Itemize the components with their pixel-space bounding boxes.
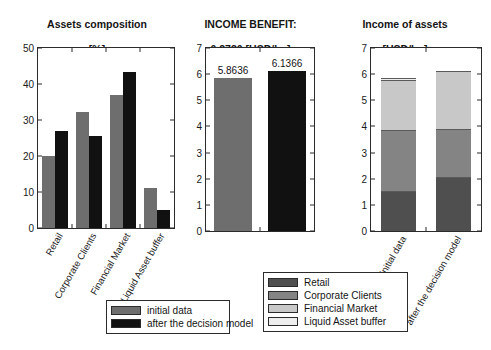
series-legend: initial dataafter the decision model [106, 300, 230, 334]
y-tick-label: 10 [23, 187, 34, 198]
y-tick-mark [477, 152, 481, 153]
legend-label: Corporate Clients [304, 290, 382, 301]
assets-legend-item[interactable]: Corporate Clients [268, 289, 402, 302]
stack-segment [381, 130, 415, 192]
panel3-title-line1: Income of assets [325, 18, 485, 31]
y-tick-mark [310, 152, 314, 153]
y-tick-mark [206, 178, 210, 179]
y-tick-mark [170, 120, 174, 121]
y-tick-mark [371, 126, 375, 127]
y-tick-mark [310, 48, 314, 49]
bar-initial-data [144, 188, 157, 228]
stack-segment [436, 71, 470, 129]
y-tick-label: 3 [361, 147, 367, 158]
y-tick-mark [477, 48, 481, 49]
y-tick-mark [310, 178, 314, 179]
figure-canvas: Assets composition [%] 01020304050Retail… [0, 0, 491, 350]
y-tick-mark [38, 120, 42, 121]
legend-swatch-icon [268, 291, 298, 300]
y-tick-label: 6 [196, 69, 202, 80]
x-tick-mark [106, 48, 107, 52]
legend-swatch-icon [268, 317, 298, 326]
y-tick-mark [310, 231, 314, 232]
y-tick-mark [477, 74, 481, 75]
y-tick-label: 2 [361, 173, 367, 184]
y-tick-label: 0 [361, 226, 367, 237]
income-of-assets-plot: 01234567initial dataafter the decision m… [370, 47, 482, 232]
bar-value-label: 6.1366 [272, 58, 303, 69]
y-tick-mark [170, 156, 174, 157]
x-tick-mark [106, 224, 107, 228]
legend-label: Liquid Asset buffer [304, 316, 386, 327]
y-tick-mark [206, 100, 210, 101]
legend-swatch-icon [111, 306, 141, 315]
y-tick-label: 6 [361, 69, 367, 80]
y-tick-mark [477, 126, 481, 127]
panel1-title-line1: Assets composition [12, 18, 182, 31]
stack-segment [381, 80, 415, 129]
y-tick-label: 0 [28, 223, 34, 234]
y-tick-mark [38, 48, 42, 49]
stack-segment [436, 177, 470, 231]
y-tick-mark [206, 231, 210, 232]
y-tick-mark [310, 204, 314, 205]
assets-legend-item[interactable]: Liquid Asset buffer [268, 315, 402, 328]
y-tick-mark [371, 100, 375, 101]
x-tick-mark [426, 48, 427, 52]
x-tick-mark [260, 227, 261, 231]
y-tick-label: 0 [196, 226, 202, 237]
y-tick-mark [206, 126, 210, 127]
x-tick-mark [260, 48, 261, 52]
y-tick-label: 4 [361, 121, 367, 132]
y-tick-label: 40 [23, 79, 34, 90]
x-tick-mark [72, 224, 73, 228]
x-tick-mark [140, 224, 141, 228]
y-tick-label: 1 [196, 199, 202, 210]
stack-segment [381, 191, 415, 231]
y-tick-label: 5 [196, 95, 202, 106]
y-tick-label: 7 [361, 43, 367, 54]
y-tick-mark [38, 84, 42, 85]
legend-label: initial data [147, 305, 192, 316]
y-tick-mark [170, 228, 174, 229]
legend-label: Financial Market [304, 303, 377, 314]
legend-swatch-icon [268, 278, 298, 287]
x-axis-label-text: Retail [43, 231, 65, 258]
y-tick-mark [310, 100, 314, 101]
y-tick-mark [371, 178, 375, 179]
x-tick-mark [426, 227, 427, 231]
bar-after-decision-model [123, 72, 136, 228]
x-tick-mark [140, 48, 141, 52]
y-tick-label: 30 [23, 115, 34, 126]
series-legend-item[interactable]: after the decision model [111, 317, 224, 330]
legend-label: after the decision model [147, 318, 253, 329]
assets-legend: RetailCorporate ClientsFinancial MarketL… [263, 272, 408, 332]
x-axis-label-text: initial data [377, 234, 408, 277]
bar-after-decision-model [89, 136, 102, 228]
assets-legend-item[interactable]: Retail [268, 276, 402, 289]
series-legend-item[interactable]: initial data [111, 304, 224, 317]
legend-swatch-icon [111, 319, 141, 328]
panel2-title-line1: INCOME BENEFIT: [168, 18, 333, 31]
legend-swatch-icon [268, 304, 298, 313]
assets-legend-item[interactable]: Financial Market [268, 302, 402, 315]
y-tick-mark [477, 100, 481, 101]
y-tick-label: 1 [361, 199, 367, 210]
x-tick-mark [72, 48, 73, 52]
legend-label: Retail [304, 277, 330, 288]
y-tick-label: 5 [361, 95, 367, 106]
income-benefit-plot: 012345675.86366.1366 [205, 47, 315, 232]
stack-segment [381, 78, 415, 81]
stack-segment [436, 129, 470, 177]
y-tick-mark [170, 84, 174, 85]
bar-after-decision-model [268, 71, 307, 231]
bar-initial-data [76, 112, 89, 228]
y-tick-mark [170, 192, 174, 193]
y-tick-label: 2 [196, 173, 202, 184]
bar-after-decision-model [157, 210, 170, 228]
bar-initial-data [214, 78, 253, 231]
bar-initial-data [110, 95, 123, 228]
y-tick-mark [477, 204, 481, 205]
y-tick-mark [310, 74, 314, 75]
y-tick-label: 20 [23, 151, 34, 162]
